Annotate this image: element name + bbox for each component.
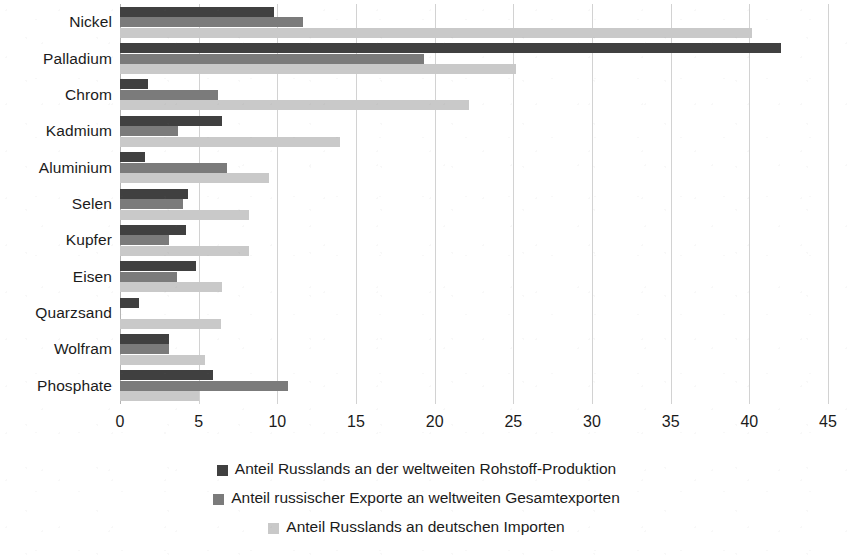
bar xyxy=(120,173,269,183)
category-label: Palladium xyxy=(0,51,112,67)
chart-legend: Anteil Russlands an der weltweiten Rohst… xyxy=(0,456,851,557)
bar xyxy=(120,210,249,220)
bar xyxy=(120,90,218,100)
category-label: Kadmium xyxy=(0,123,112,139)
x-tick-label: 15 xyxy=(347,414,365,430)
bar xyxy=(120,126,178,136)
bar xyxy=(120,344,169,354)
bar-group xyxy=(120,334,828,365)
bar-group xyxy=(120,7,828,38)
bar-group xyxy=(120,261,828,292)
bar xyxy=(120,225,186,235)
bar xyxy=(120,261,196,271)
category-label: Chrom xyxy=(0,87,112,103)
bar xyxy=(120,100,469,110)
bar xyxy=(120,298,139,308)
legend-label: Anteil russischer Exporte an weltweiten … xyxy=(231,490,620,506)
x-tick-label: 0 xyxy=(116,414,125,430)
x-tick-label: 45 xyxy=(819,414,837,430)
bar-group xyxy=(120,370,828,401)
x-tick-label: 10 xyxy=(268,414,286,430)
category-label: Eisen xyxy=(0,269,112,285)
legend-swatch-icon xyxy=(268,523,279,534)
bar xyxy=(120,391,199,401)
category-label: Quarzsand xyxy=(0,305,112,321)
x-tick-label: 40 xyxy=(740,414,758,430)
legend-swatch-icon xyxy=(217,465,228,476)
gridline-45 xyxy=(828,4,829,404)
bar xyxy=(120,334,169,344)
x-tick-label: 35 xyxy=(662,414,680,430)
bar xyxy=(120,370,213,380)
category-label: Aluminium xyxy=(0,160,112,176)
category-label: Nickel xyxy=(0,14,112,30)
bar xyxy=(120,64,516,74)
bar xyxy=(120,116,222,126)
bar-group xyxy=(120,152,828,183)
x-tick-label: 5 xyxy=(194,414,203,430)
bar-group xyxy=(120,79,828,110)
x-axis-tick-labels: 051015202530354045 xyxy=(120,414,828,440)
bar-group xyxy=(120,298,828,329)
bar xyxy=(120,189,188,199)
bar xyxy=(120,17,303,27)
bar xyxy=(120,137,340,147)
category-label: Kupfer xyxy=(0,232,112,248)
bar xyxy=(120,282,222,292)
x-tick-label: 20 xyxy=(426,414,444,430)
bar xyxy=(120,246,249,256)
category-axis-labels: NickelPalladiumChromKadmiumAluminiumSele… xyxy=(0,4,112,404)
bar xyxy=(120,7,274,17)
bar xyxy=(120,272,177,282)
plot-area: NickelPalladiumChromKadmiumAluminiumSele… xyxy=(0,0,851,410)
bar xyxy=(120,381,288,391)
bar-group xyxy=(120,116,828,147)
category-label: Phosphate xyxy=(0,378,112,394)
bar xyxy=(120,319,221,329)
x-tick-label: 25 xyxy=(504,414,522,430)
bar-group xyxy=(120,225,828,256)
legend-swatch-icon xyxy=(213,494,224,505)
bar-group xyxy=(120,189,828,220)
bar xyxy=(120,43,781,53)
legend-item[interactable]: Anteil Russlands an deutschen Importen xyxy=(0,514,851,540)
category-label: Wolfram xyxy=(0,341,112,357)
bar-group xyxy=(120,43,828,74)
legend-item[interactable]: Anteil Russlands an der weltweiten Rohst… xyxy=(0,456,851,482)
legend-item[interactable]: Anteil russischer Exporte an weltweiten … xyxy=(0,485,851,511)
bar xyxy=(120,54,424,64)
bar xyxy=(120,199,183,209)
legend-label: Anteil Russlands an der weltweiten Rohst… xyxy=(235,461,616,477)
bar-chart: NickelPalladiumChromKadmiumAluminiumSele… xyxy=(0,0,851,557)
category-label: Selen xyxy=(0,196,112,212)
bar xyxy=(120,163,227,173)
bar xyxy=(120,235,169,245)
legend-label: Anteil Russlands an deutschen Importen xyxy=(286,519,564,535)
bar xyxy=(120,79,148,89)
bar xyxy=(120,152,145,162)
bar xyxy=(120,355,205,365)
bar xyxy=(120,28,752,38)
x-tick-label: 30 xyxy=(583,414,601,430)
plot-bars-and-grid xyxy=(120,4,828,404)
